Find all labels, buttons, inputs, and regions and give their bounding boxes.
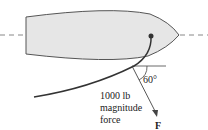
arrowhead-icon <box>152 110 158 117</box>
force-text-line3: force <box>100 114 121 125</box>
force-text-line1: 1000 lb <box>100 90 130 101</box>
attachment-point <box>149 34 154 39</box>
boat-force-diagram: 60° 1000 lb magnitude force F <box>0 0 208 130</box>
force-text-line2: magnitude <box>100 102 143 113</box>
angle-label: 60° <box>143 74 157 85</box>
boat-hull <box>26 11 179 60</box>
vector-label: F <box>155 120 161 130</box>
